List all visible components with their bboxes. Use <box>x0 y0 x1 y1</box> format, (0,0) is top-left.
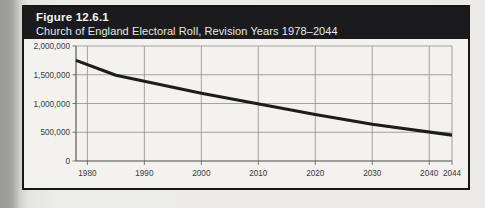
x-tick-label: 2030 <box>363 169 382 178</box>
data-line-electoral-roll <box>76 60 452 135</box>
figure-box: Figure 12.6.1 Church of England Electora… <box>22 5 470 190</box>
x-tick-label: 2040 <box>420 169 439 178</box>
x-tick-label: 1980 <box>78 169 97 178</box>
data-series-group <box>76 60 452 135</box>
y-tick-label: 1,000,000 <box>34 100 71 109</box>
x-tick-label: 2044 <box>443 169 462 178</box>
y-axis-tick-labels: 0500,0001,000,0001,500,0002,000,000 <box>34 42 71 166</box>
x-tick-label: 2010 <box>249 169 268 178</box>
page-background: Figure 12.6.1 Church of England Electora… <box>0 0 485 208</box>
x-tick-label: 2020 <box>306 169 325 178</box>
y-tick-label: 500,000 <box>40 128 70 137</box>
x-tick-label: 2000 <box>192 169 211 178</box>
figure-header: Figure 12.6.1 Church of England Electora… <box>24 7 468 39</box>
y-tick-label: 1,500,000 <box>34 71 71 80</box>
chart-plot-area: 0500,0001,000,0001,500,0002,000,000 1980… <box>24 39 468 188</box>
figure-number-label: Figure 12.6.1 <box>36 11 468 24</box>
figure-caption: Church of England Electoral Roll, Revisi… <box>36 24 468 38</box>
x-tick-label: 1990 <box>135 169 154 178</box>
horizontal-gridlines <box>76 46 452 132</box>
line-chart: 0500,0001,000,0001,500,0002,000,000 1980… <box>24 39 468 188</box>
y-tick-label: 0 <box>65 157 70 166</box>
x-axis-tick-labels: 19801990200020102020203020402044 <box>78 169 461 178</box>
y-tick-label: 2,000,000 <box>34 42 71 51</box>
